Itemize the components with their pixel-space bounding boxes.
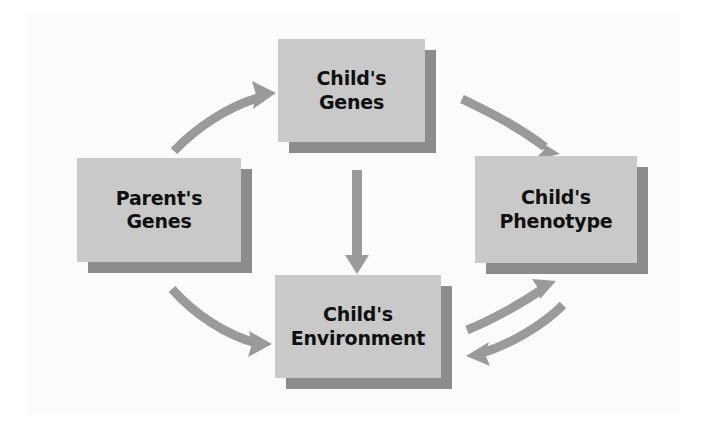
node-label-childs-environment: Child's Environment (291, 303, 425, 349)
node-childs-environment[interactable]: Child's Environment (275, 275, 441, 378)
node-label-childs-phenotype: Child's Phenotype (499, 186, 612, 232)
arrow-parents-genes-to-childs-environment (172, 289, 272, 357)
node-label-parents-genes: Parent's Genes (116, 187, 203, 233)
node-childs-phenotype[interactable]: Child's Phenotype (475, 156, 637, 263)
diagram-canvas: Parent's Genes Child's Genes Child's Phe… (0, 0, 707, 429)
node-label-childs-genes: Child's Genes (317, 67, 387, 113)
arrow-childs-genes-to-childs-phenotype (462, 99, 560, 160)
arrow-parents-genes-to-childs-genes (174, 81, 276, 151)
node-parents-genes[interactable]: Parent's Genes (77, 158, 241, 262)
arrow-childs-phenotype-to-childs-environment (466, 305, 563, 366)
node-childs-genes[interactable]: Child's Genes (278, 39, 425, 142)
arrow-childs-genes-to-childs-environment (345, 170, 369, 274)
